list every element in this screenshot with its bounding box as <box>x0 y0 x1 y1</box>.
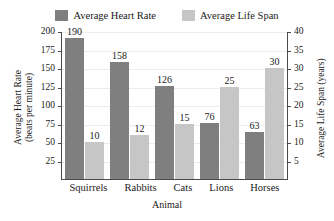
bar-value-label: 15 <box>180 113 190 123</box>
y-axis-right-title: Average Life Span (years) <box>316 33 327 183</box>
y-axis-right-tick-label: 25 <box>294 83 304 93</box>
x-axis-title: Animal <box>0 199 334 210</box>
bar-value-label: 126 <box>157 75 172 85</box>
x-axis-category-label: Squirrels <box>70 182 108 194</box>
y-axis-left-tick-label: 75 <box>46 120 56 130</box>
bar: 63 <box>245 132 264 179</box>
y-axis-left-tick-label: 125 <box>41 83 55 93</box>
bar-value-label: 30 <box>270 57 280 67</box>
y-axis-right-tick <box>287 162 291 163</box>
y-axis-left-tick-label: 100 <box>41 101 55 111</box>
bar-value-label: 63 <box>250 121 260 131</box>
bar-value-label: 190 <box>67 27 82 37</box>
bar: 10 <box>85 142 104 179</box>
legend-swatch-life-span <box>182 10 195 21</box>
bar: 12 <box>130 135 149 179</box>
y-axis-left-tick-label: 25 <box>46 157 56 167</box>
bar-value-label: 12 <box>135 124 145 134</box>
y-axis-right-tick <box>287 51 291 52</box>
y-axis-right-tick-label: 20 <box>294 101 304 111</box>
bar-group: 7625 <box>200 32 239 179</box>
y-axis-right-tick-label: 40 <box>294 27 304 37</box>
bar: 25 <box>220 87 239 180</box>
y-axis-right-tick-label: 10 <box>294 138 304 148</box>
bar-group: 12615 <box>155 32 194 179</box>
y-axis-left-tick-label: 175 <box>41 46 55 56</box>
x-axis-category-label: Rabbits <box>124 182 156 194</box>
y-axis-right-tick <box>287 106 291 107</box>
bar-group: 15812 <box>110 32 149 179</box>
bar: 190 <box>65 38 84 179</box>
y-axis-right-tick-label: 35 <box>294 46 304 56</box>
x-axis-category-label: Horses <box>250 182 279 194</box>
x-axis-category-label: Lions <box>209 182 233 194</box>
x-axis-category-labels: SquirrelsRabbitsCatsLionsHorses <box>61 182 288 197</box>
y-axis-right-tick <box>287 143 291 144</box>
y-axis-left-tick-label: 50 <box>46 138 56 148</box>
y-axis-right-tick <box>287 125 291 126</box>
legend-item-life-span: Average Life Span <box>182 10 279 21</box>
y-axis-left-title-line2: (beats per minute) <box>23 33 34 183</box>
chart-legend: Average Heart Rate Average Life Span <box>0 6 334 24</box>
bar-value-label: 10 <box>90 131 100 141</box>
bar-value-label: 76 <box>205 112 215 122</box>
y-axis-left-title: Average Heart Rate (beats per minute) <box>13 33 34 183</box>
bar-groups: 19010158121261576256330 <box>62 32 287 179</box>
y-axis-right-tick-label: 5 <box>294 157 299 167</box>
bar-value-label: 25 <box>225 76 235 86</box>
y-axis-right-tick <box>287 88 291 89</box>
legend-item-heart-rate: Average Heart Rate <box>55 10 156 21</box>
y-axis-left-tick-label: 200 <box>41 27 55 37</box>
bar-value-label: 158 <box>112 51 127 61</box>
y-axis-right-tick <box>287 32 291 33</box>
legend-label-heart-rate: Average Heart Rate <box>73 10 156 21</box>
y-axis-left-title-line1: Average Heart Rate <box>13 33 24 183</box>
bar: 76 <box>200 123 219 179</box>
bar: 158 <box>110 62 129 179</box>
bar-chart: Average Heart Rate Average Life Span Ave… <box>0 0 334 221</box>
bar: 126 <box>155 86 174 179</box>
bar: 30 <box>265 68 284 179</box>
bar-group: 6330 <box>245 32 284 179</box>
plot-area: 200175150125100755025 403530252015105 19… <box>61 32 288 180</box>
y-axis-right-tick-label: 30 <box>294 64 304 74</box>
bar-group: 19010 <box>65 32 104 179</box>
x-axis-category-label: Cats <box>174 182 193 194</box>
legend-swatch-heart-rate <box>55 10 68 21</box>
legend-label-life-span: Average Life Span <box>200 10 279 21</box>
y-axis-right-tick-label: 15 <box>294 120 304 130</box>
bar: 15 <box>175 124 194 180</box>
y-axis-left-tick-label: 150 <box>41 64 55 74</box>
y-axis-right-tick <box>287 69 291 70</box>
